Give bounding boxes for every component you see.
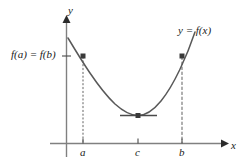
label-f-a-equals-f-b: f(a) = f(b)	[11, 49, 56, 60]
point-marker-b	[180, 54, 185, 59]
x-axis-arrowhead	[221, 140, 229, 148]
x-axis-label: x	[231, 140, 236, 151]
x-tick-label-c: c	[135, 147, 140, 158]
function-curve	[68, 32, 195, 116]
point-marker-a	[81, 54, 86, 59]
y-axis-arrowhead	[63, 15, 71, 23]
curve-equation-label: y = f(x)	[178, 25, 211, 36]
y-axis-label: y	[68, 5, 73, 16]
point-marker-c	[136, 113, 141, 118]
x-tick-label-b: b	[179, 147, 185, 158]
rolles-theorem-figure: f(a) = f(b) y y = f(x) x a c b	[0, 0, 243, 164]
x-tick-label-a: a	[80, 147, 86, 158]
